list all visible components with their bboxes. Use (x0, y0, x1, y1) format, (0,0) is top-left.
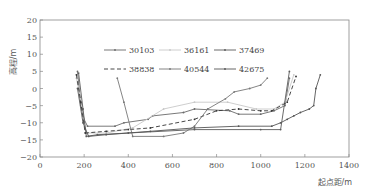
data-point-marker (194, 108, 196, 110)
series-36161 (76, 74, 295, 134)
legend-marker (224, 68, 226, 70)
legend-label: 37469 (239, 46, 264, 55)
y-tick-label: −20 (20, 153, 37, 162)
data-point-marker (260, 129, 262, 131)
data-point-marker (313, 105, 315, 107)
data-point-marker (105, 130, 107, 132)
x-axis-title: 起点距/m (318, 178, 353, 187)
legend-item-38838: 38838 (104, 65, 154, 74)
data-point-marker (82, 122, 84, 124)
legend-item-36161: 36161 (159, 46, 209, 55)
data-point-marker (194, 125, 196, 127)
data-point-marker (280, 122, 282, 124)
data-point-marker (88, 136, 90, 138)
y-tick-label: 20 (27, 16, 37, 25)
data-point-marker (150, 130, 152, 132)
y-axis-title: 高程/m (8, 49, 18, 76)
data-point-marker (105, 134, 107, 136)
data-point-marker (127, 129, 129, 131)
data-point-marker (260, 110, 262, 112)
legend-label: 40544 (184, 65, 209, 74)
data-point-marker (150, 127, 152, 129)
data-point-marker (225, 98, 227, 100)
series-30103 (77, 71, 291, 128)
data-point-marker (227, 101, 229, 103)
x-tick-label: 1200 (295, 161, 315, 170)
x-tick-label: 0 (37, 161, 42, 170)
data-point-marker (238, 113, 240, 115)
data-point-marker (163, 136, 165, 138)
series-37469 (78, 71, 291, 138)
data-point-marker (183, 132, 185, 134)
data-point-marker (260, 84, 262, 86)
data-point-marker (194, 101, 196, 103)
x-tick-label: 600 (165, 161, 180, 170)
data-point-marker (116, 77, 118, 79)
legend-label: 42675 (239, 65, 264, 74)
data-point-marker (266, 77, 268, 79)
data-point-marker (77, 88, 79, 90)
data-point-marker (271, 125, 273, 127)
x-tick-label: 400 (121, 161, 136, 170)
legend-label: 38838 (129, 65, 154, 74)
data-point-marker (249, 88, 251, 90)
data-point-marker (114, 125, 116, 127)
legend-item-40544: 40544 (159, 65, 209, 74)
data-point-marker (163, 108, 165, 110)
legend-label: 36161 (184, 46, 209, 55)
x-tick-label: 200 (77, 161, 92, 170)
data-point-marker (233, 91, 235, 93)
legend-marker (224, 49, 226, 51)
data-point-marker (77, 71, 79, 73)
data-point-marker (286, 101, 288, 103)
y-tick-label: 10 (27, 50, 37, 59)
x-tick-label: 1000 (251, 161, 271, 170)
data-point-marker (293, 115, 295, 117)
data-point-marker (105, 132, 107, 134)
data-point-marker (84, 132, 86, 134)
data-point-marker (132, 136, 134, 138)
data-point-marker (300, 112, 302, 114)
data-point-marker (87, 125, 89, 127)
legend-label: 30103 (129, 46, 154, 55)
y-tick-label: 15 (27, 33, 37, 42)
data-point-marker (238, 125, 240, 127)
data-point-marker (207, 108, 209, 110)
data-point-marker (123, 101, 125, 103)
legend-item-30103: 30103 (104, 46, 154, 55)
y-tick-label: 5 (32, 67, 37, 76)
series-line (76, 75, 293, 133)
elevation-profile-chart: 20151050−5−10−15−20 02004006008001000120… (0, 0, 373, 195)
legend-item-42675: 42675 (214, 65, 264, 74)
data-point-marker (255, 108, 257, 110)
data-point-marker (319, 74, 321, 76)
y-tick-label: −15 (20, 136, 37, 145)
y-tick-label: −10 (20, 119, 37, 128)
data-point-marker (216, 110, 218, 112)
legend: 301033616137469388384054442675 (104, 46, 264, 74)
data-point-marker (82, 108, 84, 110)
data-point-marker (194, 118, 196, 120)
data-point-marker (308, 108, 310, 110)
data-point-marker (286, 118, 288, 120)
data-point-marker (194, 129, 196, 131)
legend-marker (114, 49, 116, 51)
data-point-marker (76, 74, 78, 76)
y-tick-label: −5 (25, 102, 37, 111)
data-point-marker (123, 122, 125, 124)
y-tick-label: 0 (32, 85, 37, 94)
data-point-marker (78, 72, 80, 74)
data-point-marker (183, 112, 185, 114)
series-line (78, 71, 290, 126)
x-axis: 0200400600800100012001400 (37, 154, 359, 170)
data-point-marker (289, 71, 291, 73)
legend-marker (169, 49, 171, 51)
y-axis: 20151050−5−10−15−20 (20, 16, 43, 162)
data-point-marker (315, 88, 317, 90)
data-point-marker (280, 129, 282, 131)
data-point-marker (132, 127, 134, 129)
legend-item-37469: 37469 (214, 46, 264, 55)
data-point-marker (260, 113, 262, 115)
data-point-marker (238, 108, 240, 110)
data-point-marker (271, 110, 273, 112)
